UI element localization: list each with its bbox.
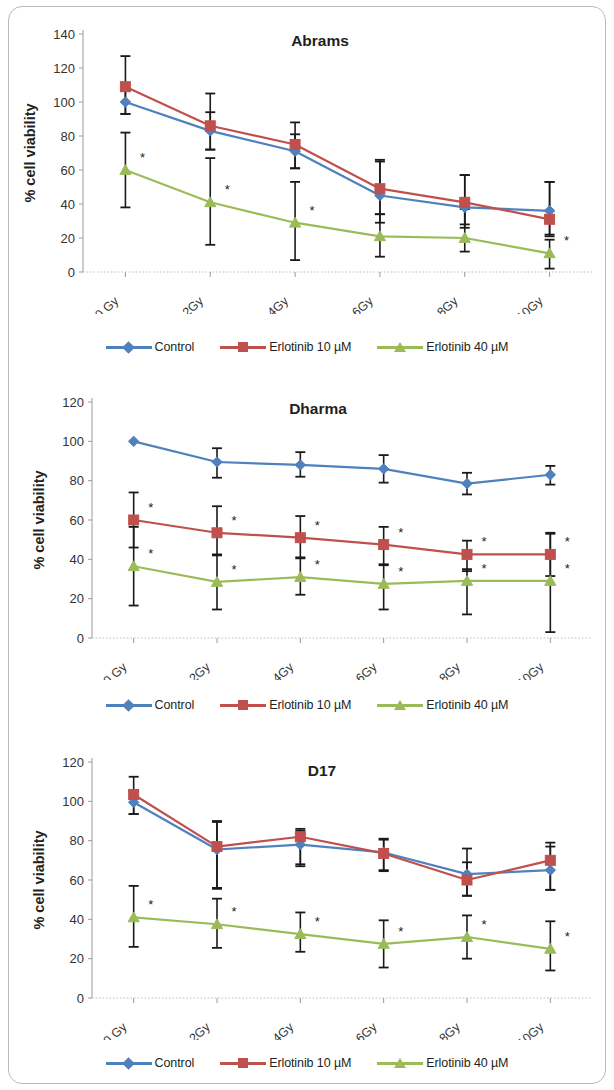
data-point-marker bbox=[212, 457, 222, 467]
legend-swatch bbox=[377, 341, 423, 353]
x-axis-tick-label: 6Gy bbox=[353, 659, 380, 680]
legend-label: Erlotinib 40 µM bbox=[426, 1056, 508, 1070]
chart-title: Dharma bbox=[289, 400, 347, 417]
data-point-marker bbox=[378, 464, 388, 474]
legend-label: Control bbox=[155, 698, 195, 712]
x-axis-tick-label: 6Gy bbox=[350, 293, 377, 314]
error-bar bbox=[460, 209, 470, 252]
significance-asterisk: * bbox=[231, 513, 236, 528]
x-axis-tick-label: 8Gy bbox=[437, 659, 464, 680]
y-axis-tick-label: 0 bbox=[77, 631, 84, 646]
legend-abrams: ControlErlotinib 10 µMErlotinib 40 µM bbox=[0, 334, 614, 360]
legend-marker-triangle-icon bbox=[394, 1058, 406, 1068]
data-point-marker bbox=[290, 140, 300, 150]
significance-asterisk: * bbox=[310, 203, 315, 218]
data-point-marker bbox=[128, 436, 138, 446]
significance-asterisk: * bbox=[565, 929, 570, 944]
significance-asterisk: * bbox=[231, 562, 236, 577]
legend-d17: ControlErlotinib 10 µMErlotinib 40 µM bbox=[0, 1050, 614, 1076]
series-line-triangle bbox=[134, 566, 551, 584]
legend-swatch bbox=[106, 699, 152, 711]
legend-marker-square-icon bbox=[238, 342, 248, 352]
y-axis-tick-label: 80 bbox=[61, 129, 75, 144]
y-axis-tick-label: 100 bbox=[62, 434, 84, 449]
y-axis-tick-label: 120 bbox=[53, 61, 75, 76]
legend-swatch bbox=[220, 1057, 266, 1069]
data-point-marker bbox=[379, 848, 389, 858]
x-axis-tick-label: 8Gy bbox=[437, 1019, 464, 1040]
data-point-marker bbox=[545, 549, 555, 559]
y-axis-tick-label: 100 bbox=[62, 794, 84, 809]
y-axis-tick-label: 0 bbox=[68, 265, 75, 280]
series-line-diamond bbox=[134, 802, 551, 874]
data-point-marker bbox=[545, 855, 555, 865]
plot-area-d17: 020406080100120% cell viabilityD170 Gy2G… bbox=[0, 730, 614, 1040]
x-axis-tick-label: 4Gy bbox=[265, 293, 292, 314]
x-axis-tick-label: 0 Gy bbox=[101, 1019, 131, 1040]
significance-asterisk: * bbox=[481, 917, 486, 932]
y-axis-tick-label: 40 bbox=[70, 912, 84, 927]
x-axis-tick-label: 8Gy bbox=[434, 293, 461, 314]
x-axis-tick-label: 10Gy bbox=[514, 293, 546, 314]
legend-entry: Control bbox=[106, 340, 195, 354]
significance-asterisk: * bbox=[148, 500, 153, 515]
legend-dharma: ControlErlotinib 10 µMErlotinib 40 µM bbox=[0, 692, 614, 718]
legend-label: Erlotinib 10 µM bbox=[269, 1056, 351, 1070]
x-axis-tick-label: 10Gy bbox=[515, 659, 547, 680]
y-axis-title: % cell viability bbox=[31, 830, 47, 929]
y-axis-tick-label: 60 bbox=[70, 873, 84, 888]
data-point-marker bbox=[545, 865, 555, 875]
significance-asterisk: * bbox=[564, 233, 569, 248]
y-axis-tick-label: 20 bbox=[70, 951, 84, 966]
legend-swatch bbox=[377, 699, 423, 711]
legend-marker-triangle-icon bbox=[394, 700, 406, 710]
legend-entry: Erlotinib 40 µM bbox=[377, 1056, 508, 1070]
significance-asterisk: * bbox=[481, 561, 486, 576]
chart-panel-d17: 020406080100120% cell viabilityD170 Gy2G… bbox=[0, 730, 614, 1088]
y-axis-tick-label: 20 bbox=[61, 231, 75, 246]
series-line-triangle bbox=[134, 917, 551, 948]
data-point-marker bbox=[295, 832, 305, 842]
data-point-marker bbox=[460, 197, 470, 207]
legend-entry: Erlotinib 40 µM bbox=[377, 698, 508, 712]
data-point-marker bbox=[128, 561, 139, 571]
data-point-marker bbox=[129, 789, 139, 799]
x-axis-tick-label: 10Gy bbox=[515, 1019, 547, 1040]
x-axis-tick-label: 0 Gy bbox=[92, 293, 122, 314]
series-line-square bbox=[125, 87, 549, 220]
chart-title: D17 bbox=[308, 762, 336, 779]
legend-entry: Erlotinib 10 µM bbox=[220, 698, 351, 712]
series-line-triangle bbox=[125, 170, 549, 253]
data-point-marker bbox=[462, 478, 472, 488]
significance-asterisk: * bbox=[140, 150, 145, 165]
y-axis-tick-label: 120 bbox=[62, 755, 84, 770]
legend-entry: Erlotinib 10 µM bbox=[220, 1056, 351, 1070]
data-point-marker bbox=[120, 82, 130, 92]
data-point-marker bbox=[545, 470, 555, 480]
legend-entry: Control bbox=[106, 698, 195, 712]
legend-marker-diamond-icon bbox=[122, 341, 135, 354]
legend-entry: Erlotinib 40 µM bbox=[377, 340, 508, 354]
y-axis-tick-label: 0 bbox=[77, 991, 84, 1006]
significance-asterisk: * bbox=[315, 557, 320, 572]
significance-asterisk: * bbox=[148, 546, 153, 561]
x-axis-tick-label: 2Gy bbox=[187, 1019, 214, 1040]
legend-marker-square-icon bbox=[238, 1058, 248, 1068]
x-axis-tick-label: 4Gy bbox=[270, 1019, 297, 1040]
y-axis-title: % cell viability bbox=[22, 103, 38, 202]
significance-asterisk: * bbox=[231, 904, 236, 919]
legend-label: Erlotinib 10 µM bbox=[269, 340, 351, 354]
x-axis-tick-label: 2Gy bbox=[180, 293, 207, 314]
data-point-marker bbox=[295, 533, 305, 543]
data-point-marker bbox=[212, 842, 222, 852]
y-axis-title: % cell viability bbox=[31, 470, 47, 569]
line-chart-dharma: 020406080100120% cell viabilityDharma0 G… bbox=[0, 370, 614, 680]
legend-swatch bbox=[106, 341, 152, 353]
legend-marker-diamond-icon bbox=[122, 699, 135, 712]
y-axis-tick-label: 120 bbox=[62, 395, 84, 410]
legend-marker-diamond-icon bbox=[122, 1057, 135, 1070]
series-line-square bbox=[134, 520, 551, 554]
significance-asterisk: * bbox=[565, 534, 570, 549]
significance-asterisk: * bbox=[398, 924, 403, 939]
legend-swatch bbox=[220, 699, 266, 711]
